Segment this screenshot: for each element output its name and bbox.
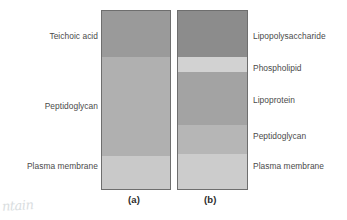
label-peptidoglycan-a: Peptidoglycan xyxy=(45,101,98,111)
band-peptidoglycan-b xyxy=(178,125,247,155)
band-lipoprotein xyxy=(178,72,247,125)
band-plasma-membrane-b xyxy=(178,154,247,189)
label-peptidoglycan-b: Peptidoglycan xyxy=(253,131,306,141)
band-phospholipid xyxy=(178,57,247,72)
cell-wall-column-a xyxy=(101,10,171,190)
label-plasma-membrane-a: Plasma membrane xyxy=(27,161,98,171)
label-teichoic-acid: Teichoic acid xyxy=(49,31,98,41)
caption-a: (a) xyxy=(128,194,140,205)
figure-canvas: Teichoic acid Peptidoglycan Plasma membr… xyxy=(0,0,347,220)
band-teichoic-acid xyxy=(102,11,170,57)
label-phospholipid: Phospholipid xyxy=(253,63,302,73)
band-peptidoglycan-a xyxy=(102,57,170,156)
label-lipopolysaccharide: Lipopolysaccharide xyxy=(253,31,326,41)
cell-wall-column-b xyxy=(177,10,248,190)
band-plasma-membrane-a xyxy=(102,156,170,189)
caption-b: (b) xyxy=(204,194,217,205)
label-plasma-membrane-b: Plasma membrane xyxy=(253,161,324,171)
band-lipopolysaccharide xyxy=(178,11,247,57)
label-lipoprotein: Lipoprotein xyxy=(253,95,295,105)
handwriting-artifact: ntain xyxy=(2,197,34,214)
